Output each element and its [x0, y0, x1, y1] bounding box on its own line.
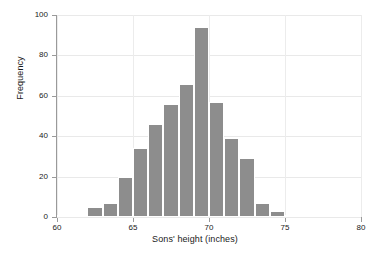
- histogram-bar: [179, 84, 194, 217]
- x-tick-label: 60: [42, 223, 72, 232]
- y-axis-title: Frequency: [15, 28, 25, 128]
- x-tick-mark: [209, 218, 210, 222]
- histogram-bar: [194, 27, 209, 217]
- x-tick-label: 65: [118, 223, 148, 232]
- x-gridline: [361, 15, 362, 217]
- histogram-bar: [118, 177, 133, 217]
- y-tick-mark: [52, 96, 57, 97]
- x-tick-mark: [361, 218, 362, 222]
- y-tick-label: 100: [22, 11, 48, 19]
- histogram-bar: [163, 104, 178, 217]
- x-gridline: [285, 15, 286, 217]
- histogram-bar: [255, 203, 270, 217]
- x-tick-mark: [57, 218, 58, 222]
- y-tick-mark: [52, 177, 57, 178]
- histogram-bar: [148, 124, 163, 217]
- y-tick-mark: [52, 15, 57, 16]
- plot-area: [57, 15, 361, 217]
- histogram-bar: [270, 211, 285, 217]
- x-tick-label: 70: [194, 223, 224, 232]
- x-gridline: [57, 15, 58, 217]
- x-tick-mark: [285, 218, 286, 222]
- histogram-bar: [133, 148, 148, 217]
- histogram-bar: [209, 102, 224, 217]
- x-tick-mark: [133, 218, 134, 222]
- x-tick-label: 75: [270, 223, 300, 232]
- histogram-bar: [224, 138, 239, 217]
- histogram-figure: Frequency Sons' height (inches) 02040608…: [0, 0, 390, 256]
- y-tick-label: 20: [22, 173, 48, 181]
- histogram-bar: [331, 215, 346, 217]
- histogram-bar: [103, 203, 118, 217]
- y-tick-mark: [52, 55, 57, 56]
- x-axis-title: Sons' height (inches): [0, 234, 390, 244]
- x-tick-label: 80: [346, 223, 376, 232]
- y-tick-mark: [52, 136, 57, 137]
- histogram-bar: [285, 215, 300, 217]
- y-tick-label: 0: [22, 213, 48, 221]
- histogram-bar: [57, 215, 72, 217]
- histogram-bar: [87, 207, 102, 217]
- y-tick-label: 60: [22, 92, 48, 100]
- histogram-bar: [239, 158, 254, 217]
- y-tick-label: 40: [22, 132, 48, 140]
- y-tick-label: 80: [22, 51, 48, 59]
